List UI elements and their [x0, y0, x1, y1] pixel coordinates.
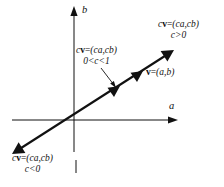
label-scalar-negative-line1: cv=(ca,cb) [12, 153, 53, 163]
a-axis-label: a [169, 100, 174, 111]
a-axis-arrowhead [168, 116, 178, 123]
label-vector-v: v=(a,b) [146, 67, 174, 78]
vector-arrowhead-positive [161, 50, 174, 62]
b-axis-label: b [82, 4, 87, 15]
label-scalar-positive-line2: c>0 [158, 30, 199, 41]
label-vector-v-text: v=(a,b) [146, 67, 174, 77]
label-scalar-negative-line2: c<0 [12, 164, 53, 175]
label-scalar-negative: cv=(ca,cb) c<0 [12, 153, 53, 175]
callout-pointer-arrowhead [110, 81, 116, 88]
label-scalar-fractional: cv=(ca,cb) 0<c<1 [76, 45, 117, 67]
b-axis-arrowhead [70, 6, 77, 16]
label-scalar-positive: cv=(ca,cb) c>0 [158, 19, 199, 41]
label-scalar-fractional-line1: cv=(ca,cb) [76, 45, 117, 55]
label-scalar-fractional-line2: 0<c<1 [76, 56, 117, 67]
vector-scalar-multiple-figure: b a cv=(ca,cb) c>0 cv=(ca,cb) 0<c<1 v=(a… [0, 0, 224, 187]
label-scalar-positive-line1: cv=(ca,cb) [158, 19, 199, 29]
